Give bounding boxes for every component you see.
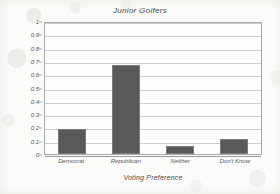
x-axis-title: Voting Preference — [44, 174, 262, 181]
y-axis-tick-mark — [39, 35, 42, 36]
y-axis-tick-label: 0.6 — [31, 72, 39, 78]
gridline — [45, 156, 261, 157]
bar-slot — [99, 23, 153, 154]
y-axis-tick-mark — [39, 115, 42, 116]
y-axis-tick-mark — [39, 128, 42, 129]
y-axis-tick-mark — [39, 101, 42, 102]
bar[interactable] — [166, 146, 194, 154]
x-axis-tick-label: Democrat — [44, 158, 99, 164]
y-axis-tick-mark — [39, 88, 42, 89]
y-axis-tick-label: 0.9 — [31, 32, 39, 38]
y-axis-tick-label: 0.1 — [31, 139, 39, 145]
x-axis-tick-label: Republican — [99, 158, 154, 164]
y-axis-tick-mark — [39, 141, 42, 142]
bar[interactable] — [112, 65, 140, 154]
bar[interactable] — [58, 129, 86, 154]
y-axis-tick-label: 0.5 — [31, 86, 39, 92]
x-axis-tick-labels: DemocratRepublicanNeitherDon't Know — [44, 158, 262, 164]
bar-chart-figure: Junior Golfers Proportion 10.90.80.70.60… — [0, 0, 280, 194]
chart-title: Junior Golfers — [0, 6, 280, 15]
bar[interactable] — [220, 139, 248, 154]
y-axis-tick-label: 0.4 — [31, 99, 39, 105]
y-axis-tick-label: 0.7 — [31, 59, 39, 65]
x-axis-tick-label: Neither — [153, 158, 208, 164]
x-axis-tick-label: Don't Know — [208, 158, 263, 164]
bar-series — [45, 23, 261, 154]
y-axis-tick-mark — [39, 155, 42, 156]
y-axis-tick-labels: 10.90.80.70.60.50.40.30.20.10 — [18, 22, 42, 155]
bar-slot — [45, 23, 99, 154]
y-axis-tick-label: 0.2 — [31, 125, 39, 131]
y-axis-tick-label: 0.3 — [31, 112, 39, 118]
bar-slot — [207, 23, 261, 154]
bar-slot — [153, 23, 207, 154]
y-axis-tick-mark — [39, 48, 42, 49]
y-axis-tick-mark — [39, 75, 42, 76]
y-axis-tick-mark — [39, 61, 42, 62]
y-axis-tick-label: 0.8 — [31, 46, 39, 52]
y-axis-tick-mark — [39, 22, 42, 23]
plot-area — [44, 22, 262, 155]
